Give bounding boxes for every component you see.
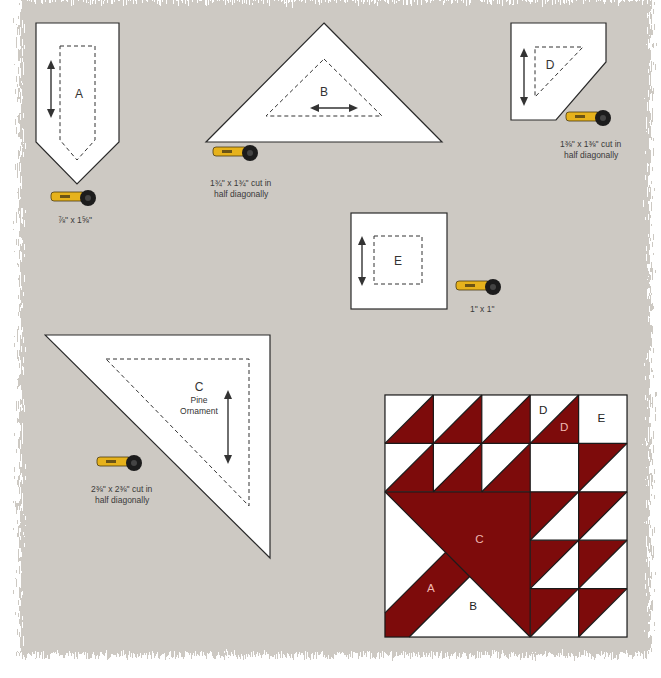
block-label-c: C — [475, 532, 483, 545]
template-piece-b: B — [204, 22, 444, 144]
piece-b-cut-size: 1¾" x 1¾" cut in half diagonally — [210, 178, 271, 200]
block-label-a: A — [427, 581, 435, 594]
piece-e-cut-size: 1" x 1" — [470, 304, 494, 315]
rotary-cutter-icon — [455, 277, 505, 297]
rotary-cutter-icon — [50, 188, 100, 208]
template-piece-c: C Pine Ornament — [44, 334, 272, 560]
block-label-d-light: D — [539, 403, 547, 416]
block-label-d-dark: D — [560, 420, 568, 433]
piece-b-letter: B — [320, 85, 328, 99]
rotary-cutter-icon — [565, 108, 615, 128]
piece-c-name-line1: Pine — [190, 395, 207, 405]
rotary-cutter-icon — [212, 143, 262, 163]
template-piece-a: A — [35, 22, 121, 186]
piece-d-letter: D — [546, 58, 555, 72]
piece-d-cut-size: 1⅜" x 1⅜" cut in half diagonally — [560, 139, 621, 161]
piece-a-cut-size: ⅞" x 1⅝" — [58, 215, 92, 226]
piece-a-letter: A — [75, 87, 83, 101]
block-label-e: E — [597, 411, 605, 424]
finished-quilt-block: D D E C A B — [384, 394, 628, 638]
rotary-cutter-icon — [96, 453, 146, 473]
template-piece-e: E — [350, 212, 448, 310]
piece-c-cut-size: 2⅜" x 2⅜" cut in half diagonally — [91, 484, 152, 506]
template-piece-d: D — [510, 22, 610, 122]
piece-c-letter: C — [195, 380, 204, 394]
block-label-b: B — [469, 599, 477, 612]
piece-e-letter: E — [394, 254, 402, 268]
piece-c-name-line2: Ornament — [180, 406, 218, 416]
